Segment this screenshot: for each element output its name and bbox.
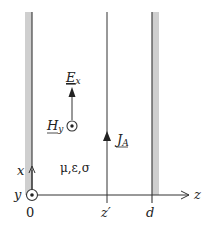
tick-wall-label: d xyxy=(146,205,154,220)
y-out-of-page-icon xyxy=(27,190,38,201)
current-arrow-icon xyxy=(103,131,111,141)
current-label: JA xyxy=(114,132,129,148)
h-field-out-of-page-icon xyxy=(67,121,77,131)
y-axis-label: y xyxy=(13,187,22,202)
right-wall xyxy=(152,12,159,203)
z-axis-label: z xyxy=(193,187,201,202)
tick-source-label: z′ xyxy=(100,205,111,220)
tick-origin-label: 0 xyxy=(26,205,34,220)
h-field-label: Hy xyxy=(46,118,64,134)
x-axis-label: x xyxy=(17,163,25,178)
medium-label: μ,ε,σ xyxy=(60,161,90,175)
diagram-canvas: Ex Hy JA μ,ε,σ x y z 0 z′ d xyxy=(0,0,213,237)
e-field-arrowhead-icon xyxy=(69,87,76,97)
